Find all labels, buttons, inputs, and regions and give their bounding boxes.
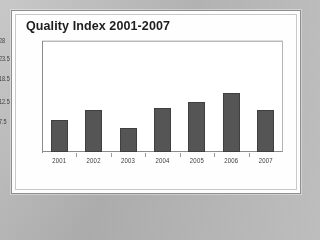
x-axis-label: 2003 — [111, 157, 145, 173]
bar-slot — [42, 41, 76, 152]
bar-2005 — [188, 102, 205, 152]
bar-slot — [111, 41, 145, 152]
y-axis-tick: 23.5 — [0, 56, 10, 62]
bar-series — [42, 41, 283, 152]
chart-title: Quality Index 2001-2007 — [26, 19, 170, 33]
bar-slot — [249, 41, 283, 152]
bar-2002 — [85, 110, 102, 152]
bar-2001 — [51, 120, 68, 152]
y-axis-tick: 18.5 — [0, 76, 10, 82]
x-axis-label: 2001 — [42, 157, 76, 173]
x-axis-label: 2002 — [76, 157, 110, 173]
bar-slot — [145, 41, 179, 152]
y-axis-line — [42, 41, 43, 153]
bar-slot — [180, 41, 214, 152]
bar-2003 — [120, 128, 137, 152]
x-axis-label: 2006 — [214, 157, 248, 173]
x-axis-label: 2004 — [145, 157, 179, 173]
chart-card: Quality Index 2001-2007 2823.518.512.57.… — [11, 10, 301, 194]
bar-2004 — [154, 108, 171, 152]
bar-slot — [214, 41, 248, 152]
bar-slot — [76, 41, 110, 152]
x-axis-labels: 2001200220032004200520062007 — [42, 158, 283, 172]
x-axis-label: 2007 — [249, 157, 283, 173]
y-axis-tick: 28 — [0, 38, 5, 44]
x-axis-label: 2005 — [180, 157, 214, 173]
y-tick-label: 7.5 — [0, 119, 7, 126]
bar-2007 — [257, 110, 274, 152]
y-tick-label: 23.5 — [0, 55, 10, 62]
y-axis-tick: 7.5 — [0, 119, 7, 125]
y-tick-label: 28 — [0, 38, 5, 45]
bar-2006 — [223, 93, 240, 152]
y-tick-label: 18.5 — [0, 75, 10, 82]
y-axis-tick: 12.5 — [0, 99, 10, 105]
y-tick-label: 12.5 — [0, 99, 10, 106]
plot-area — [42, 41, 283, 152]
